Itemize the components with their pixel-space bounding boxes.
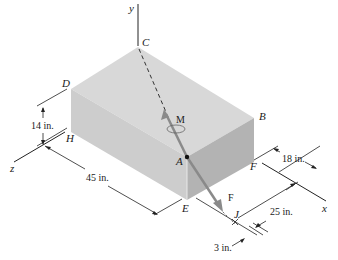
label-A: A: [175, 155, 183, 167]
dim-depth: 18 in.: [282, 153, 305, 164]
label-H: H: [65, 132, 75, 144]
label-F-point: F: [249, 160, 257, 172]
dim-j-offset-z: 3 in.: [214, 242, 232, 253]
label-C: C: [142, 36, 150, 48]
label-E: E: [181, 202, 189, 214]
dim-height: 14 in.: [31, 120, 54, 131]
z-axis: [14, 132, 65, 162]
dim-length: 45 in.: [86, 172, 109, 183]
dim-j-offset-x: 25 in.: [270, 206, 293, 217]
label-z-axis: z: [9, 162, 15, 174]
label-F-force: F: [228, 192, 234, 203]
block-diagram: 14 in. 45 in. 18 in. 25 in. 3 in. M F y …: [0, 0, 338, 260]
label-J: J: [234, 208, 240, 220]
label-M: M: [176, 114, 185, 125]
label-y-axis: y: [128, 2, 134, 14]
label-x-axis: x: [321, 202, 327, 214]
point-A: [185, 155, 189, 159]
label-D: D: [61, 77, 70, 89]
label-B: B: [259, 110, 266, 122]
